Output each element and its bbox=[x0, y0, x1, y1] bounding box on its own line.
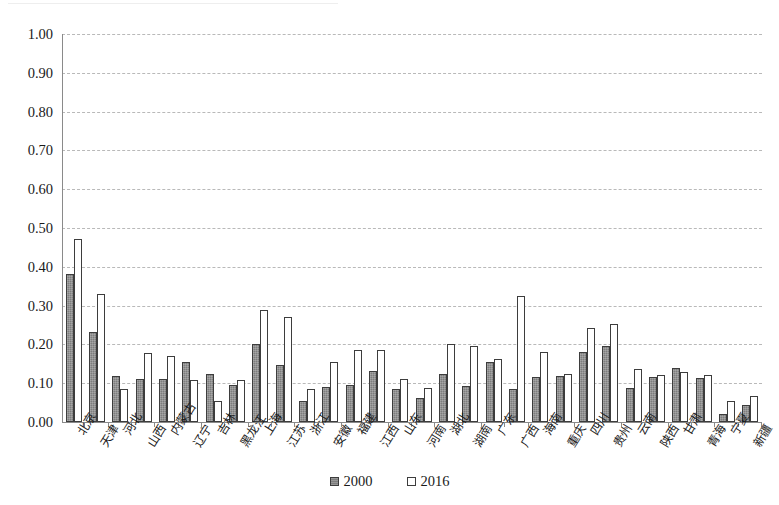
bar-2000 bbox=[66, 274, 74, 422]
y-axis-tick-label: 0.10 bbox=[1, 375, 53, 392]
x-axis-label-cell: 四川 bbox=[575, 427, 598, 477]
bar-2016 bbox=[657, 375, 665, 422]
bar-group bbox=[435, 34, 458, 422]
x-axis-label-cell: 河南 bbox=[412, 427, 435, 477]
x-axis-label-cell: 天津 bbox=[85, 427, 108, 477]
legend-swatch-icon bbox=[407, 477, 416, 486]
bar-group bbox=[249, 34, 272, 422]
bar-2000 bbox=[346, 385, 354, 422]
bar-group bbox=[319, 34, 342, 422]
x-axis-label-cell: 内蒙古 bbox=[155, 427, 178, 477]
x-axis-label-cell: 江苏 bbox=[272, 427, 295, 477]
bar-2016 bbox=[284, 317, 292, 422]
bars-layer bbox=[62, 34, 762, 422]
bar-group bbox=[272, 34, 295, 422]
bar-2000 bbox=[392, 389, 400, 422]
legend-item: 2000 bbox=[330, 474, 373, 489]
bar-2016 bbox=[494, 359, 502, 422]
x-axis-label-cell: 湖北 bbox=[435, 427, 458, 477]
bar-2016 bbox=[237, 380, 245, 422]
bar-2016 bbox=[704, 375, 712, 422]
bar-2000 bbox=[299, 401, 307, 422]
bar-group bbox=[575, 34, 598, 422]
y-axis-tick-label: 0.50 bbox=[1, 220, 53, 237]
bar-group bbox=[505, 34, 528, 422]
x-axis-label-cell: 北京 bbox=[62, 427, 85, 477]
bar-group bbox=[389, 34, 412, 422]
legend-swatch-icon bbox=[330, 477, 339, 486]
x-axis-label-cell: 广东 bbox=[482, 427, 505, 477]
bar-group bbox=[529, 34, 552, 422]
x-axis-label-cell: 浙江 bbox=[295, 427, 318, 477]
x-axis-label-cell: 上海 bbox=[249, 427, 272, 477]
bar-group bbox=[365, 34, 388, 422]
bar-group bbox=[85, 34, 108, 422]
bar-2000 bbox=[112, 376, 120, 422]
x-axis-label-cell: 福建 bbox=[342, 427, 365, 477]
x-axis-label-cell: 云南 bbox=[622, 427, 645, 477]
y-axis-tick-label: 0.40 bbox=[1, 258, 53, 275]
bar-2016 bbox=[587, 328, 595, 422]
y-axis-tick-label: 0.80 bbox=[1, 103, 53, 120]
bar-2016 bbox=[167, 356, 175, 422]
plot-area bbox=[62, 34, 762, 422]
bar-group bbox=[412, 34, 435, 422]
x-axis-label-cell: 山西 bbox=[132, 427, 155, 477]
bar-group bbox=[202, 34, 225, 422]
bar-2016 bbox=[377, 350, 385, 422]
bar-group bbox=[669, 34, 692, 422]
legend-item: 2016 bbox=[407, 474, 450, 489]
bar-group bbox=[715, 34, 738, 422]
bar-2000 bbox=[579, 352, 587, 422]
bar-group bbox=[552, 34, 575, 422]
x-axis-label-cell: 贵州 bbox=[599, 427, 622, 477]
x-axis-label-cell: 黑龙江 bbox=[225, 427, 248, 477]
bar-2016 bbox=[517, 296, 525, 422]
bar-2016 bbox=[74, 239, 82, 422]
bar-group bbox=[179, 34, 202, 422]
y-axis-tick-label: 0.30 bbox=[1, 297, 53, 314]
bar-group bbox=[62, 34, 85, 422]
bar-group bbox=[599, 34, 622, 422]
x-axis-label-cell: 甘肃 bbox=[669, 427, 692, 477]
bar-2000 bbox=[532, 377, 540, 422]
bar-2000 bbox=[602, 346, 610, 422]
bar-2016 bbox=[330, 362, 338, 422]
x-axis-label-cell: 吉林 bbox=[202, 427, 225, 477]
bar-2016 bbox=[540, 352, 548, 422]
bar-2016 bbox=[97, 294, 105, 422]
bar-group bbox=[342, 34, 365, 422]
x-axis-label-cell: 广西 bbox=[505, 427, 528, 477]
x-axis-label-cell: 山东 bbox=[389, 427, 412, 477]
bar-chart: 1.000.900.800.700.600.500.400.300.200.10… bbox=[0, 0, 779, 505]
x-axis-label-cell: 江西 bbox=[365, 427, 388, 477]
y-axis-tick-label: 0.90 bbox=[1, 64, 53, 81]
y-axis-tick-label: 0.70 bbox=[1, 142, 53, 159]
x-axis-label-cell: 陕西 bbox=[645, 427, 668, 477]
y-axis-tick-label: 0.60 bbox=[1, 181, 53, 198]
x-axis-label-cell: 湖南 bbox=[459, 427, 482, 477]
x-axis-label-cell: 青海 bbox=[692, 427, 715, 477]
bar-2000 bbox=[206, 374, 214, 423]
bar-2016 bbox=[144, 353, 152, 422]
x-axis-label-cell: 海南 bbox=[529, 427, 552, 477]
bar-group bbox=[692, 34, 715, 422]
bar-group bbox=[622, 34, 645, 422]
bar-2016 bbox=[260, 310, 268, 422]
legend-label: 2016 bbox=[421, 474, 450, 489]
bar-group bbox=[155, 34, 178, 422]
bar-2000 bbox=[626, 388, 634, 422]
bar-2016 bbox=[564, 374, 572, 422]
bar-group bbox=[739, 34, 762, 422]
bar-2016 bbox=[470, 346, 478, 422]
chart-legend: 20002016 bbox=[0, 474, 779, 489]
x-axis-label-cell: 新疆 bbox=[739, 427, 762, 477]
x-axis-label-cell: 安徽 bbox=[319, 427, 342, 477]
y-axis-tick-label: 0.20 bbox=[1, 336, 53, 353]
x-axis-label-cell: 宁夏 bbox=[715, 427, 738, 477]
bar-2000 bbox=[159, 379, 167, 422]
bar-2000 bbox=[719, 414, 727, 422]
bar-2000 bbox=[439, 374, 447, 422]
x-axis-label-cell: 河北 bbox=[109, 427, 132, 477]
x-axis-label-cell: 重庆 bbox=[552, 427, 575, 477]
